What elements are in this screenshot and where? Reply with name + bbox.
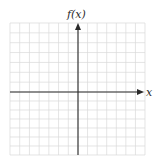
x-axis-label: x — [146, 86, 153, 99]
y-axis-label: f(x) — [66, 8, 86, 21]
coordinate-plane: f(x) x — [0, 0, 157, 165]
y-axis-arrow-icon — [75, 23, 81, 30]
x-axis-arrow-icon — [137, 89, 144, 95]
